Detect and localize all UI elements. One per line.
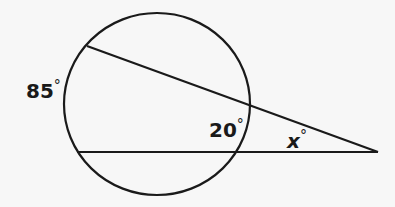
- near-arc-label: 20°: [209, 116, 244, 142]
- secant-angle-diagram: 85° 20° x°: [0, 0, 395, 207]
- far-arc-label: 85°: [26, 77, 61, 103]
- angle-x-label: x°: [286, 127, 307, 153]
- circle: [64, 13, 250, 195]
